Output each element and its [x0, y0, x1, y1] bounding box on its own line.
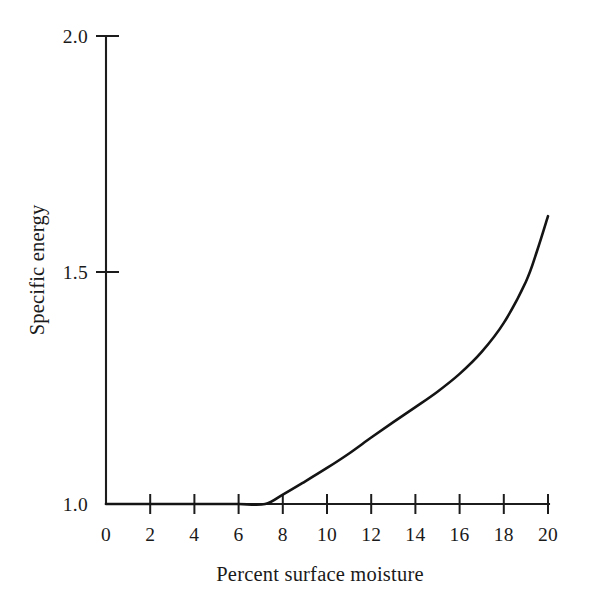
x-tick-label-8: 8: [278, 524, 288, 545]
y-axis-title: Specific energy: [26, 204, 49, 335]
y-tick-label-1-0: 1.0: [63, 494, 88, 515]
x-tick-label-18: 18: [494, 524, 514, 545]
x-tick-label-6: 6: [234, 524, 244, 545]
x-tick-label-12: 12: [361, 524, 381, 545]
x-tick-label-20: 20: [538, 524, 558, 545]
data-series-line: [106, 216, 548, 505]
x-tick-label-16: 16: [450, 524, 470, 545]
x-tick-label-0: 0: [101, 524, 111, 545]
y-tick-label-1-5: 1.5: [63, 262, 88, 283]
x-tick-label-4: 4: [189, 524, 199, 545]
x-axis-title: Percent surface moisture: [216, 563, 423, 585]
chart-figure: 2.0 1.5 1.0 0 2 4 6 8 10 12 14 16 18 20 …: [0, 0, 590, 604]
y-tick-label-2-0: 2.0: [63, 26, 88, 47]
chart-plot-area: 2.0 1.5 1.0 0 2 4 6 8 10 12 14 16 18 20 …: [0, 0, 590, 604]
x-tick-label-14: 14: [405, 524, 425, 545]
x-tick-label-10: 10: [317, 524, 337, 545]
y-axis-ticks: [96, 36, 119, 272]
x-tick-label-2: 2: [145, 524, 155, 545]
